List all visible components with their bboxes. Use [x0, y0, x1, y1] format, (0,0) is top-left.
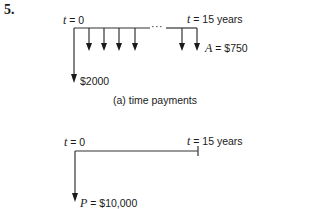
start-time-label-a: t = 0 — [63, 14, 84, 26]
timeline-b — [75, 146, 198, 156]
annuity-label: A = $750 — [205, 42, 248, 54]
present-value-label: P = $10,000 — [80, 197, 137, 209]
present-value-arrow — [72, 151, 78, 202]
annuity-arrows — [86, 28, 200, 51]
end-time-label-a: t = 15 years — [187, 13, 243, 25]
ellipsis: ··· — [151, 20, 163, 32]
initial-payment-arrow — [71, 28, 77, 83]
end-time-label-b: t = 15 years — [187, 135, 243, 147]
initial-payment-label: $2000 — [80, 75, 109, 87]
caption-a: (a) time payments — [113, 94, 197, 106]
start-time-label-b: t = 0 — [64, 136, 85, 148]
